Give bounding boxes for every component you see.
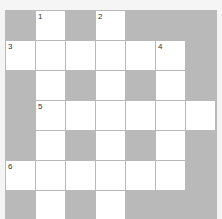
crossword-cell[interactable] (156, 101, 185, 130)
blocked-cell (66, 131, 95, 160)
crossword-cell[interactable]: 5 (36, 101, 65, 130)
crossword-cell[interactable] (96, 191, 125, 219)
crossword-cell[interactable] (156, 161, 185, 190)
blocked-cell (156, 11, 185, 40)
blocked-cell (186, 41, 215, 70)
crossword-cell[interactable] (36, 161, 65, 190)
crossword-grid: 123456 (5, 10, 217, 219)
blocked-cell (186, 131, 215, 160)
blocked-cell (126, 11, 155, 40)
crossword-cell[interactable] (36, 41, 65, 70)
crossword-cell[interactable] (36, 71, 65, 100)
blocked-cell (126, 191, 155, 219)
crossword-cell[interactable] (126, 101, 155, 130)
blocked-cell (6, 11, 35, 40)
crossword-cell[interactable] (36, 131, 65, 160)
crossword-cell[interactable] (96, 71, 125, 100)
clue-number: 2 (98, 13, 102, 21)
crossword-cell[interactable]: 3 (6, 41, 35, 70)
clue-number: 3 (8, 43, 12, 51)
blocked-cell (66, 11, 95, 40)
crossword-cell[interactable] (96, 161, 125, 190)
blocked-cell (126, 131, 155, 160)
crossword-cell[interactable] (126, 161, 155, 190)
crossword-cell[interactable] (156, 131, 185, 160)
blocked-cell (186, 161, 215, 190)
clue-number: 1 (38, 13, 42, 21)
blocked-cell (156, 191, 185, 219)
blocked-cell (186, 11, 215, 40)
crossword-cell[interactable] (96, 41, 125, 70)
crossword-cell[interactable]: 4 (156, 41, 185, 70)
crossword-cell[interactable]: 1 (36, 11, 65, 40)
crossword-cell[interactable] (126, 41, 155, 70)
crossword-cell[interactable]: 2 (96, 11, 125, 40)
blocked-cell (186, 71, 215, 100)
clue-number: 4 (158, 43, 162, 51)
crossword-cell[interactable] (186, 101, 215, 130)
crossword-cell[interactable] (66, 161, 95, 190)
blocked-cell (6, 101, 35, 130)
blocked-cell (186, 191, 215, 219)
clue-number: 6 (8, 163, 12, 171)
blocked-cell (66, 71, 95, 100)
crossword-cell[interactable] (66, 41, 95, 70)
blocked-cell (6, 191, 35, 219)
crossword-cell[interactable] (66, 101, 95, 130)
crossword-cell[interactable] (36, 191, 65, 219)
crossword-cell[interactable] (156, 71, 185, 100)
clue-number: 5 (38, 103, 42, 111)
blocked-cell (126, 71, 155, 100)
crossword-cell[interactable]: 6 (6, 161, 35, 190)
crossword-cell[interactable] (96, 101, 125, 130)
crossword-cell[interactable] (96, 131, 125, 160)
blocked-cell (6, 131, 35, 160)
blocked-cell (66, 191, 95, 219)
blocked-cell (6, 71, 35, 100)
